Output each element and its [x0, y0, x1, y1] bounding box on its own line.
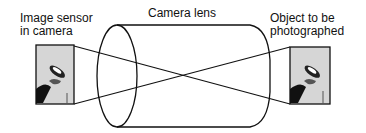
- lens-body-outline: [117, 25, 270, 127]
- light-rays: [74, 46, 290, 104]
- lens-front-ellipse: [97, 25, 137, 127]
- sensor-image: [36, 45, 74, 104]
- object-image: [290, 47, 330, 104]
- optics-diagram: [0, 0, 366, 133]
